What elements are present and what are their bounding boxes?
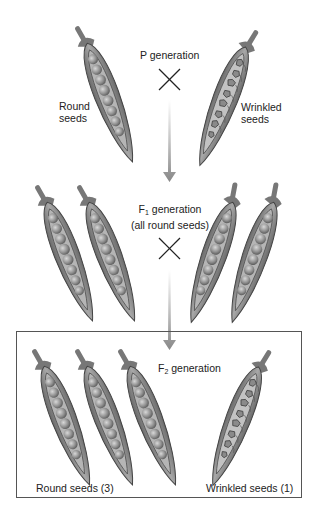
p-round-pod [70,23,143,167]
f2-generation-label: F2 generation [158,362,221,378]
p-wrinkled-label-line2: seeds [241,113,282,125]
f2-round-label: Round seeds (3) [36,482,114,494]
p-round-label-line1: Round [59,100,90,112]
p-wrinkled-label-line1: Wrinkled [241,101,282,113]
p-wrinkled-label: Wrinkled seeds [241,101,282,125]
p-round-label-line2: seeds [59,112,90,124]
p-round-label: Round seeds [59,100,90,124]
f2-wrinkled-label: Wrinkled seeds (1) [206,482,293,494]
f1-cross-symbol [159,238,180,259]
arrow-p-to-f1 [163,100,176,182]
f1-generation-label: F1 generation (all round seeds) [120,203,220,231]
f2-suffix: generation [168,362,221,374]
p-generation-label: P generation [140,49,199,61]
p-cross-symbol [159,69,180,90]
f1-generation-title: F1 generation [120,203,220,219]
f1-note: (all round seeds) [120,219,220,231]
f1-suffix: generation [149,203,202,215]
f2-generation-box [16,331,302,498]
